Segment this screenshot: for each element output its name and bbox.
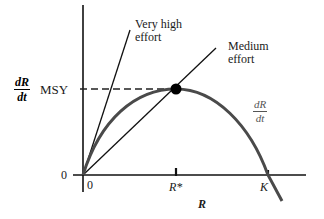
origin-y-label: 0 (61, 169, 67, 182)
k-label: K (260, 181, 268, 194)
curve-label-denominator: dt (253, 112, 267, 124)
very-high-effort-label-line2: effort (135, 30, 161, 44)
yield-effort-diagram: dR dt MSY Very high effort Medium effort… (0, 0, 324, 219)
very-high-effort-label-line1: Very high (135, 17, 182, 31)
r-star-label: R* (169, 181, 182, 194)
y-axis-label: dR dt (14, 76, 30, 103)
x-axis-label: R (198, 198, 206, 211)
medium-effort-label: Medium effort (228, 40, 269, 66)
curve-label-numerator: dR (253, 99, 267, 112)
origin-x-label: 0 (87, 179, 93, 192)
y-axis-label-numerator: dR (14, 76, 30, 90)
msy-point (171, 84, 182, 95)
medium-effort-label-line1: Medium (228, 39, 269, 53)
medium-effort-label-line2: effort (228, 52, 254, 66)
msy-label: MSY (40, 83, 68, 96)
y-axis-label-denominator: dt (14, 90, 30, 103)
curve-label: dR dt (253, 99, 267, 124)
very-high-effort-label: Very high effort (135, 18, 182, 44)
